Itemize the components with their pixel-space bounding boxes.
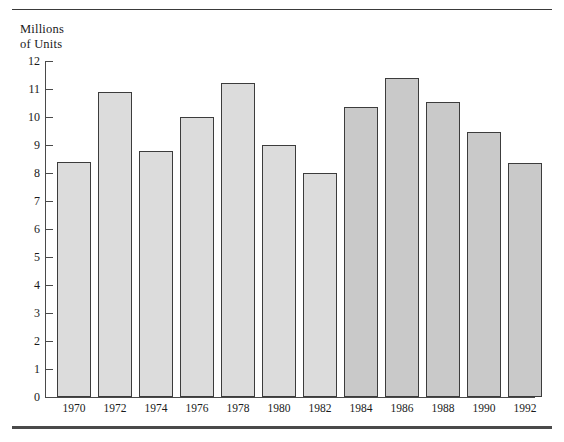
bar — [467, 132, 501, 397]
x-axis-baseline — [45, 397, 535, 398]
bar — [262, 145, 296, 397]
x-tick-label: 1988 — [420, 401, 466, 415]
y-tick — [46, 89, 53, 90]
y-tick — [46, 285, 53, 286]
bar — [139, 151, 173, 397]
y-tick-label: 3 — [10, 307, 40, 319]
x-tick-label: 1982 — [297, 401, 343, 415]
bar — [426, 102, 460, 397]
y-tick-label: 1 — [10, 363, 40, 375]
bar — [98, 92, 132, 397]
y-tick — [46, 229, 53, 230]
y-tick-label: 12 — [10, 55, 40, 67]
y-tick — [46, 61, 53, 62]
bar — [57, 162, 91, 397]
y-tick — [46, 173, 53, 174]
x-tick-label: 1974 — [133, 401, 179, 415]
bar — [385, 78, 419, 397]
y-tick — [46, 201, 53, 202]
y-tick — [46, 313, 53, 314]
x-tick-label: 1972 — [92, 401, 138, 415]
y-tick-label: 9 — [10, 139, 40, 151]
y-tick-label: 8 — [10, 167, 40, 179]
bar — [344, 107, 378, 397]
y-tick-label: 11 — [10, 83, 40, 95]
y-tick-label: 6 — [10, 223, 40, 235]
y-tick-label: 0 — [10, 391, 40, 403]
x-tick-label: 1976 — [174, 401, 220, 415]
x-tick-label: 1992 — [502, 401, 548, 415]
x-tick-label: 1990 — [461, 401, 507, 415]
y-tick — [46, 117, 53, 118]
bar — [221, 83, 255, 397]
y-tick — [46, 257, 53, 258]
y-tick — [46, 369, 53, 370]
bar — [180, 117, 214, 397]
y-tick — [46, 397, 53, 398]
bar-chart: 0123456789101112 19701972197419761978198… — [0, 0, 564, 442]
y-tick-label: 5 — [10, 251, 40, 263]
y-tick-label: 4 — [10, 279, 40, 291]
y-tick-label: 7 — [10, 195, 40, 207]
bar — [303, 173, 337, 397]
y-tick-label: 10 — [10, 111, 40, 123]
y-tick-label: 2 — [10, 335, 40, 347]
y-tick — [46, 341, 53, 342]
x-tick-label: 1984 — [338, 401, 384, 415]
x-tick-label: 1970 — [51, 401, 97, 415]
bar — [508, 163, 542, 397]
x-tick-label: 1980 — [256, 401, 302, 415]
x-tick-label: 1978 — [215, 401, 261, 415]
y-tick — [46, 145, 53, 146]
x-tick-label: 1986 — [379, 401, 425, 415]
